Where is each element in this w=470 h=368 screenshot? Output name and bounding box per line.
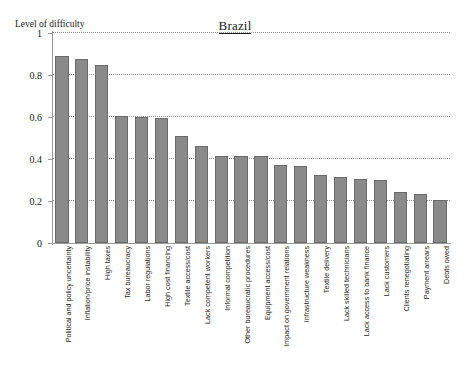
x-axis-tick-label: Lack access to bank finance [363, 246, 370, 336]
bar [394, 192, 407, 243]
gridline [52, 158, 450, 159]
x-axis-tick-label: High taxes [104, 246, 111, 280]
bar [254, 156, 267, 243]
y-axis-tick-label: 0.8 [8, 70, 42, 81]
y-axis-tick-label: 0.2 [8, 196, 42, 207]
bar [274, 165, 287, 243]
x-axis-tick-label: Lack customers [383, 246, 390, 296]
x-axis-tick-label: Informal competition [224, 246, 231, 311]
x-axis-tick-group: Political and policy uncertaintyInflatio… [52, 246, 450, 366]
x-axis-line [52, 243, 451, 244]
bar [354, 179, 367, 243]
bar [374, 180, 387, 243]
y-axis-tick-label: 0.4 [8, 154, 42, 165]
bar [155, 118, 168, 243]
y-axis-tick-label: 0 [8, 238, 42, 249]
plot-area [52, 33, 450, 243]
x-axis-tick-label: Debts owed [443, 246, 450, 284]
gridline [52, 32, 450, 33]
gridline [52, 200, 450, 201]
x-axis-tick-label: Political and policy uncertainty [65, 246, 72, 342]
x-axis-tick-label: Lack competent workers [204, 246, 211, 324]
y-axis-tick-label: 1 [8, 28, 42, 39]
bar [314, 175, 327, 243]
x-axis-tick-label: Lack skilled technicians [343, 246, 350, 321]
bar [195, 146, 208, 243]
chart-container: Brazil Level of difficulty 00.20.40.60.8… [0, 0, 470, 368]
y-axis-tick-label: 0.6 [8, 112, 42, 123]
bar [75, 59, 88, 243]
x-axis-tick-label: Clients renegotiating [403, 246, 410, 312]
bar [234, 156, 247, 243]
bar [55, 56, 68, 243]
x-axis-tick-label: Equipment access/cost [264, 246, 271, 320]
y-axis-tick-mark [48, 243, 53, 244]
x-axis-tick-label: High cost financing [164, 246, 171, 307]
x-axis-tick-label: Textile access/cost [184, 246, 191, 306]
bar [135, 117, 148, 243]
x-axis-tick-label: Payment arrears [423, 246, 430, 299]
x-axis-tick-label: Tax bureaucracy [124, 246, 131, 299]
gridline [52, 116, 450, 117]
x-axis-tick-label: Inflation/price instability [84, 246, 91, 320]
bar [294, 166, 307, 243]
x-axis-tick-label: Textile delivery [323, 246, 330, 293]
bar [95, 65, 108, 244]
x-axis-tick-label: Other bureaucratic procedures [244, 246, 251, 343]
bar [433, 200, 446, 243]
bar [414, 194, 427, 243]
x-axis-tick-label: Infrastructure weakness [303, 246, 310, 322]
bar [334, 177, 347, 243]
bar [115, 116, 128, 243]
bar [175, 136, 188, 243]
bar [215, 156, 228, 243]
x-axis-tick-label: Labor regulations [144, 246, 151, 302]
x-axis-tick-label: Impact on government relations [283, 246, 290, 347]
gridline [52, 74, 450, 75]
